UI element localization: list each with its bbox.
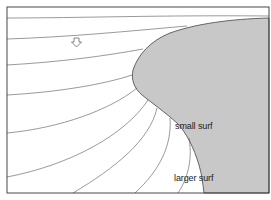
wave-line <box>7 100 148 177</box>
wave-line <box>178 138 190 193</box>
wave-line <box>135 118 170 193</box>
small-surf-label: small surf <box>175 121 213 131</box>
wave-line <box>7 26 187 39</box>
larger-surf-label: larger surf <box>174 173 213 183</box>
wave-refraction-diagram <box>0 0 271 200</box>
wave-line <box>7 16 269 18</box>
wave-line <box>7 75 132 95</box>
down-arrow-icon <box>72 38 82 47</box>
wave-line <box>7 49 143 65</box>
headland <box>132 18 269 193</box>
wave-line <box>7 88 137 133</box>
